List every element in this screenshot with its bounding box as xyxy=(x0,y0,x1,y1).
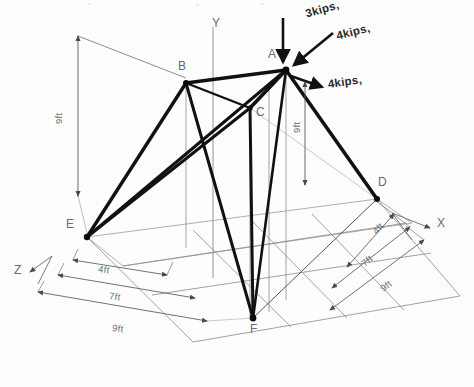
dim-label-front-9ft: 9ft xyxy=(111,322,124,334)
figure-canvas: Y X Z A B C D E F 3kips, 4kips, 4kips, 9… xyxy=(0,0,474,387)
dimension-height-left xyxy=(78,36,186,233)
x-axis-line xyxy=(392,213,430,240)
axis-label-y: Y xyxy=(212,16,220,30)
projection-lines xyxy=(186,70,286,316)
member-B-F xyxy=(186,83,253,318)
member-B-C xyxy=(186,83,250,108)
scan-speckle xyxy=(196,4,199,6)
scan-speckle xyxy=(88,3,91,5)
dim-label-front-7ft: 7ft xyxy=(108,290,121,302)
joint-D xyxy=(374,196,380,202)
dim-label-height-left: 9ft xyxy=(53,113,64,124)
scan-speckle xyxy=(260,3,264,5)
node-label-B: B xyxy=(178,59,186,73)
ground-plane-grid xyxy=(87,199,460,342)
truss-members xyxy=(87,70,377,318)
dim-label-height-A: 9ft xyxy=(291,122,302,133)
construction-lines xyxy=(87,83,377,237)
node-label-D: D xyxy=(378,175,387,189)
joint-C xyxy=(247,105,252,110)
member-B-E xyxy=(87,83,186,237)
joint-B xyxy=(183,80,189,86)
force-arrow-4kips-diagonal xyxy=(294,33,333,65)
truss-diagram-svg xyxy=(0,0,474,387)
node-label-F: F xyxy=(250,322,258,336)
joint-E xyxy=(84,234,90,240)
axis-label-x: X xyxy=(437,216,445,230)
z-axis-line xyxy=(30,256,52,284)
dim-label-front-4ft: 4ft xyxy=(97,263,110,275)
node-label-A: A xyxy=(268,47,276,61)
node-label-E: E xyxy=(66,217,74,231)
node-label-C: C xyxy=(256,105,265,119)
axis-label-z: Z xyxy=(14,263,22,277)
joint-A xyxy=(283,67,290,74)
